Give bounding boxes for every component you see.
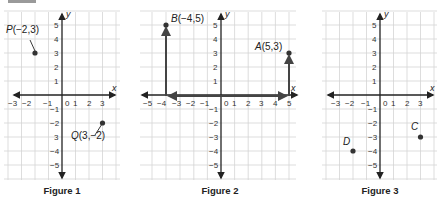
- svg-text:−2: −2: [368, 119, 378, 128]
- svg-text:3: 3: [54, 49, 59, 58]
- svg-text:2: 2: [213, 63, 218, 72]
- point-c-label: C: [411, 121, 418, 132]
- svg-text:4: 4: [213, 35, 218, 44]
- svg-text:3: 3: [54, 133, 59, 142]
- svg-text:−5: −5: [368, 161, 378, 170]
- point-p-label: P(−2,3): [6, 24, 39, 35]
- svg-text:−3: −3: [331, 99, 341, 108]
- svg-text:5: 5: [213, 21, 218, 30]
- svg-text:2: 2: [405, 99, 410, 108]
- svg-text:3: 3: [259, 99, 264, 108]
- figure-2-caption: Figure 2: [180, 185, 260, 196]
- svg-text:1: 1: [372, 77, 377, 86]
- point-q: [100, 120, 105, 125]
- svg-text:y: y: [383, 9, 389, 19]
- svg-text:3: 3: [418, 99, 423, 108]
- point-b-label: B(−4,5): [171, 13, 204, 24]
- svg-text:3: 3: [100, 99, 105, 108]
- figure-2-paths: [166, 28, 289, 96]
- svg-text:4: 4: [372, 35, 377, 44]
- figure-3-caption: Figure 3: [340, 185, 420, 196]
- svg-text:x: x: [429, 83, 435, 93]
- svg-text:−3: −3: [368, 133, 378, 142]
- svg-text:−1: −1: [368, 105, 378, 114]
- svg-text:−4: −4: [368, 147, 378, 156]
- svg-text:0: 0: [383, 99, 388, 108]
- svg-text:−2: −2: [345, 99, 355, 108]
- svg-text:2: 2: [246, 99, 251, 108]
- coordinate-figures: −3−2−1 0123 54321 −1−23−4−5 −5−4−3−2−1 0…: [0, 0, 437, 203]
- point-d-label: D: [343, 136, 350, 147]
- svg-text:5: 5: [54, 21, 59, 30]
- point-p: [32, 50, 37, 55]
- svg-text:x: x: [111, 83, 117, 93]
- svg-text:−5: −5: [143, 99, 153, 108]
- svg-text:2: 2: [372, 63, 377, 72]
- svg-text:−4: −4: [50, 147, 60, 156]
- point-a-label: A(5,3): [255, 41, 282, 52]
- figure-1-caption: Figure 1: [22, 185, 102, 196]
- svg-text:2: 2: [54, 63, 59, 72]
- svg-text:−1: −1: [50, 105, 60, 114]
- point-d: [350, 148, 355, 153]
- svg-text:−2: −2: [186, 99, 196, 108]
- svg-text:x: x: [290, 83, 296, 93]
- svg-text:5: 5: [287, 99, 292, 108]
- point-q-label: Q(3,−2): [71, 130, 105, 141]
- svg-text:0: 0: [65, 99, 70, 108]
- svg-text:0: 0: [224, 99, 229, 108]
- svg-text:1: 1: [232, 99, 237, 108]
- svg-text:1: 1: [213, 77, 218, 86]
- svg-text:−1: −1: [209, 105, 219, 114]
- svg-text:−4: −4: [209, 147, 219, 156]
- svg-text:−2: −2: [22, 99, 32, 108]
- point-b: [163, 22, 168, 27]
- point-c: [418, 134, 423, 139]
- svg-text:y: y: [224, 9, 230, 19]
- figure-1-points: [30, 40, 105, 135]
- svg-text:1: 1: [73, 99, 78, 108]
- svg-text:−2: −2: [50, 119, 60, 128]
- svg-text:−3: −3: [209, 133, 219, 142]
- svg-text:5: 5: [372, 21, 377, 30]
- svg-text:3: 3: [372, 49, 377, 58]
- svg-text:−3: −3: [8, 99, 18, 108]
- svg-text:−2: −2: [209, 119, 219, 128]
- svg-text:4: 4: [54, 35, 59, 44]
- svg-text:−5: −5: [50, 161, 60, 170]
- svg-text:1: 1: [391, 99, 396, 108]
- svg-text:−3: −3: [172, 99, 182, 108]
- svg-text:1: 1: [54, 77, 59, 86]
- point-a: [286, 50, 291, 55]
- svg-text:2: 2: [87, 99, 92, 108]
- svg-text:−4: −4: [157, 99, 167, 108]
- svg-text:−5: −5: [209, 161, 219, 170]
- svg-text:3: 3: [213, 49, 218, 58]
- svg-text:y: y: [65, 9, 71, 19]
- svg-text:4: 4: [273, 99, 278, 108]
